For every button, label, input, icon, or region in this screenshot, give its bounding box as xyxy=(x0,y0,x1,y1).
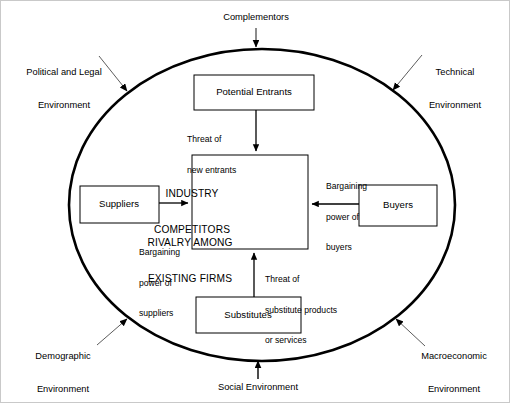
label-political-legal-line1: Political and Legal xyxy=(9,67,119,78)
label-technical-line1: Technical xyxy=(405,67,505,78)
label-bargaining-suppliers-line2: power of xyxy=(139,278,180,288)
label-bargaining-suppliers-line1: Bargaining xyxy=(139,247,180,257)
label-threat-of-new-entrants: Threat of new entrants xyxy=(187,114,236,195)
label-threat-new-entrants-line1: Threat of xyxy=(187,134,236,144)
label-macroeconomic-line1: Macroeconomic xyxy=(401,351,507,362)
label-technical-environment: Technical Environment xyxy=(405,45,505,133)
label-buyers: Buyers xyxy=(383,199,413,210)
label-bargaining-power-of-suppliers: Bargaining power of suppliers xyxy=(139,227,180,339)
label-social-environment: Social Environment xyxy=(218,382,298,393)
label-threat-new-entrants-line2: new entrants xyxy=(187,165,236,175)
label-demographic-line2: Environment xyxy=(9,384,117,395)
label-macroeconomic-line2: Environment xyxy=(401,384,507,395)
label-political-legal-environment: Political and Legal Environment xyxy=(9,45,119,133)
label-suppliers: Suppliers xyxy=(99,198,139,209)
label-threat-substitutes-line3: or services xyxy=(265,335,337,345)
label-threat-substitutes-line1: Threat of xyxy=(265,274,337,284)
label-potential-entrants: Potential Entrants xyxy=(216,86,292,97)
label-political-legal-line2: Environment xyxy=(9,100,119,111)
label-bargaining-suppliers-line3: suppliers xyxy=(139,308,180,318)
label-demographic-line1: Demographic xyxy=(9,351,117,362)
label-threat-substitutes-line2: substitute products xyxy=(265,305,337,315)
label-complementors: Complementors xyxy=(223,12,289,23)
label-threat-of-substitutes: Threat of substitute products or service… xyxy=(265,254,337,366)
label-technical-line2: Environment xyxy=(405,100,505,111)
diagram-canvas: Complementors Political and Legal Enviro… xyxy=(0,0,510,403)
label-bargaining-buyers-line3: buyers xyxy=(326,242,367,252)
label-bargaining-buyers-line2: power of xyxy=(326,212,367,222)
label-bargaining-buyers-line1: Bargaining xyxy=(326,181,367,191)
label-demographic-environment: Demographic Environment xyxy=(9,329,117,403)
label-macroeconomic-environment: Macroeconomic Environment xyxy=(401,329,507,403)
